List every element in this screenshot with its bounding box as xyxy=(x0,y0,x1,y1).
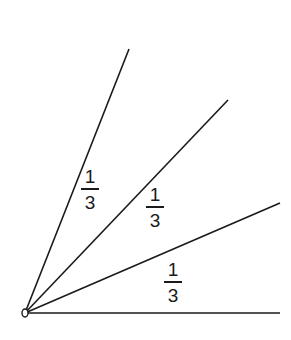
numerator: 1 xyxy=(81,167,99,186)
fraction-bar xyxy=(146,206,164,208)
fraction-bar xyxy=(164,281,182,283)
denominator: 3 xyxy=(146,211,164,230)
fraction-label-2: 1 3 xyxy=(146,185,164,230)
vertex-point xyxy=(22,309,28,317)
denominator: 3 xyxy=(164,286,182,305)
denominator: 3 xyxy=(81,193,99,212)
fraction-bar xyxy=(81,188,99,190)
fraction-label-3: 1 3 xyxy=(164,260,182,305)
ray-top xyxy=(25,49,129,313)
ray-second xyxy=(25,100,228,313)
numerator: 1 xyxy=(164,260,182,279)
fraction-label-1: 1 3 xyxy=(81,167,99,212)
angle-diagram xyxy=(0,0,291,340)
numerator: 1 xyxy=(146,185,164,204)
